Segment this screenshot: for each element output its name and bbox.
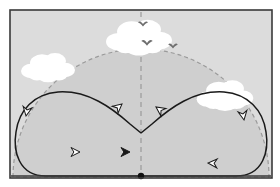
diagram-canvas bbox=[0, 0, 280, 187]
flight-path-figure bbox=[0, 0, 280, 187]
